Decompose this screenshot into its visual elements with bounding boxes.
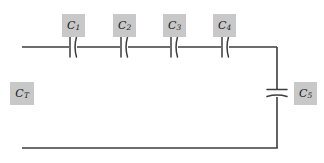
circuit-schematic <box>0 0 324 163</box>
capacitor-c1-plate-right <box>75 37 76 57</box>
capacitor-c5-symbol <box>267 90 287 97</box>
capacitor-c1-symbol <box>70 37 77 57</box>
label-c2: C2 <box>113 14 136 37</box>
capacitor-c4-plate-right <box>227 37 228 57</box>
label-c3-subscript: 3 <box>177 24 182 32</box>
label-c5-subscript: 5 <box>308 92 313 100</box>
capacitor-c2-plate-right <box>126 37 127 57</box>
label-c5-symbol: C <box>299 88 307 99</box>
capacitor-c2-symbol <box>121 37 128 57</box>
label-ct: CT <box>10 82 34 105</box>
label-c4-subscript: 4 <box>227 24 232 32</box>
label-c4-symbol: C <box>218 20 226 31</box>
label-c2-subscript: 2 <box>127 24 132 32</box>
capacitor-c5-plate-bottom <box>267 95 287 96</box>
label-c2-symbol: C <box>118 20 126 31</box>
label-c3: C3 <box>163 14 186 37</box>
label-c4: C4 <box>213 14 236 37</box>
capacitor-c3-plate-right <box>176 37 177 57</box>
label-c1-subscript: 1 <box>76 24 81 32</box>
label-ct-symbol: C <box>15 88 23 99</box>
capacitor-c4-symbol <box>222 37 229 57</box>
label-c3-symbol: C <box>168 20 176 31</box>
label-c1: C1 <box>62 14 85 37</box>
label-c1-symbol: C <box>67 20 75 31</box>
capacitor-c3-symbol <box>171 37 178 57</box>
label-c5: C5 <box>294 82 317 105</box>
label-ct-subscript: T <box>24 92 29 100</box>
circuit-diagram-canvas: CT C1 C2 C3 C4 C5 <box>0 0 324 163</box>
